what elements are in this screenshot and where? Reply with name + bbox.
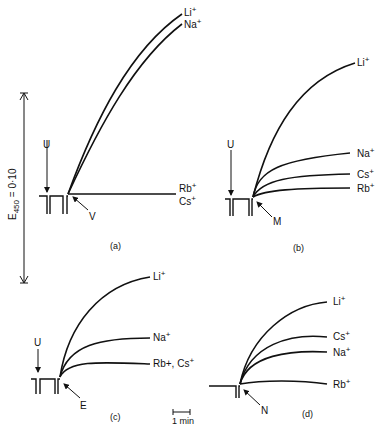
panel-label-d: (d) (302, 409, 313, 419)
label-na: Na+ (333, 345, 351, 358)
marker-u: U (34, 337, 41, 348)
trace-rb (253, 188, 350, 197)
label-li: Li+ (333, 294, 346, 307)
y-scale-label: E450 = 0·10 (7, 168, 21, 220)
baseline-trace (225, 199, 253, 216)
trace-cs (240, 336, 327, 384)
trace-na (60, 338, 150, 377)
baseline-trace (31, 379, 60, 394)
panel-c: U E Li+ Na+ Rb+, Cs+ (c) (31, 269, 194, 422)
marker-u: U (43, 139, 50, 150)
label-li: Li+ (357, 55, 370, 68)
injection-arrow-n (244, 390, 260, 405)
trace-na (68, 24, 182, 194)
label-li: Li+ (153, 269, 166, 282)
panel-label-c: (c) (110, 412, 121, 422)
label-na: Na+ (357, 146, 375, 159)
trace-li (68, 14, 182, 194)
trace-cs (253, 174, 350, 197)
panel-d: N Li+ Cs+ Na+ Rb+ (d) (209, 294, 351, 419)
trace-li (60, 277, 150, 377)
figure-canvas: E450 = 0·10 U V Li+ Na+ Rb+ Cs+ (a) U M … (0, 0, 378, 432)
label-na: Na+ (153, 330, 171, 343)
label-rb: Rb+ (179, 181, 197, 194)
x-scale-bar: 1 min (172, 409, 194, 426)
label-cs: Cs+ (179, 194, 196, 207)
label-na: Na+ (184, 17, 202, 30)
marker-n: N (261, 405, 268, 416)
marker-v: V (89, 211, 96, 222)
label-cs: Cs+ (333, 329, 350, 342)
injection-arrow-v (73, 197, 88, 210)
y-scale-bar: E450 = 0·10 (7, 93, 28, 283)
marker-e: E (80, 400, 87, 411)
label-cs: Cs+ (357, 167, 374, 180)
injection-arrow-e (64, 384, 80, 398)
panel-label-a: (a) (110, 241, 121, 251)
panel-label-b: (b) (293, 243, 304, 253)
marker-u: U (227, 139, 234, 150)
baseline-trace (209, 386, 240, 398)
label-li: Li+ (184, 5, 197, 18)
trace-rb-cs (60, 363, 150, 377)
trace-li (240, 302, 327, 384)
panel-a: U V Li+ Na+ Rb+ Cs+ (a) (39, 5, 202, 251)
panel-b: U M Li+ Na+ Cs+ Rb+ (b) (225, 55, 375, 253)
injection-arrow-m (257, 202, 272, 217)
baseline-trace (39, 196, 68, 214)
label-rb: Rb+ (357, 181, 375, 194)
trace-na (240, 352, 327, 384)
marker-m: M (273, 216, 281, 227)
label-rb-cs: Rb+, Cs+ (153, 356, 194, 369)
label-rb: Rb+ (333, 377, 351, 390)
trace-rb (240, 381, 327, 384)
x-scale-label: 1 min (172, 416, 194, 426)
